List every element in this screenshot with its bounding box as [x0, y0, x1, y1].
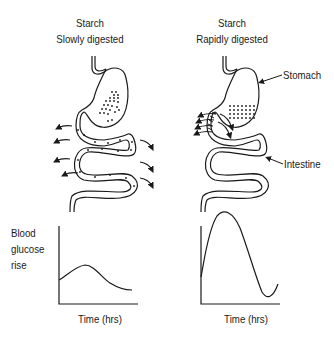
slow-intestine: [70, 126, 137, 212]
diagram-canvas: [0, 0, 334, 339]
slow-absorption-arrows: [56, 126, 152, 186]
slow-stomach: [76, 56, 128, 127]
rapid-graph-axes: [201, 226, 280, 304]
rapid-intestine: [201, 126, 268, 212]
slow-stomach-particles: [99, 91, 120, 122]
slow-graph-curve: [59, 265, 132, 290]
slow-intestine-particles: [77, 129, 135, 187]
rapid-stomach-particles: [228, 105, 256, 121]
rapid-graph: [201, 212, 280, 304]
slow-graph-axes: [59, 226, 138, 304]
slow-graph: [59, 226, 138, 304]
rapid-graph-curve: [201, 212, 278, 297]
callout-arrows: [261, 75, 283, 164]
